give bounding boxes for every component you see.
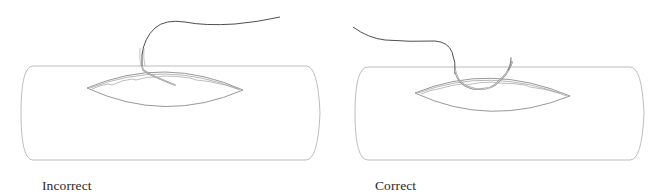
wound-lower-edge-right — [415, 93, 570, 111]
caption-incorrect: Incorrect — [42, 178, 92, 194]
panel-correct — [353, 27, 644, 160]
suture-technique-figure: Incorrect Correct — [0, 0, 660, 196]
suture-thread-left — [142, 17, 280, 66]
needle-left — [142, 66, 175, 85]
panel-incorrect — [21, 17, 320, 160]
wound-tissue-margin-left — [92, 76, 238, 89]
needle-left-highlight — [142, 66, 175, 85]
figure-drawing — [0, 0, 660, 196]
caption-correct: Correct — [375, 178, 416, 194]
wound-lower-edge-left — [87, 88, 243, 107]
skin-cylinder-left — [21, 66, 320, 160]
needle-right — [455, 62, 512, 89]
wound-upper-inner-left — [90, 74, 240, 90]
needle-tip-right — [508, 58, 511, 70]
